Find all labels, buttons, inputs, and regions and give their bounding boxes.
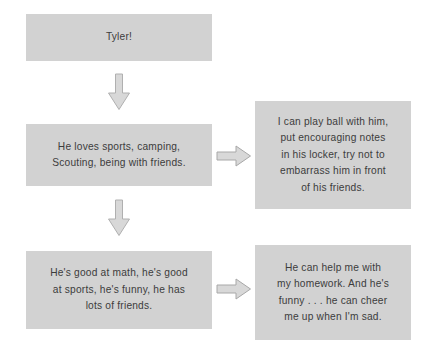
arrow-down-icon (104, 199, 134, 237)
arrow-right-icon (216, 277, 252, 301)
flowchart-node-tyler: Tyler! (26, 14, 212, 61)
flowchart-node-goodat-label: He's good at math, he's good at sports, … (50, 265, 188, 315)
flowchart-node-loves-label: He loves sports, camping, Scouting, bein… (52, 139, 185, 172)
arrow-right-icon (216, 144, 252, 168)
flowchart-node-playball: I can play ball with him, put encouragin… (255, 101, 411, 209)
flowchart-node-helpme: He can help me with my homework. And he'… (255, 245, 411, 340)
arrow-down-icon (104, 73, 134, 111)
flowchart-node-playball-label: I can play ball with him, put encouragin… (278, 114, 388, 197)
flowchart-node-loves: He loves sports, camping, Scouting, bein… (26, 124, 212, 186)
flowchart-node-helpme-label: He can help me with my homework. And he'… (277, 260, 389, 326)
flowchart-node-tyler-label: Tyler! (106, 29, 132, 46)
flowchart-canvas: Tyler! He loves sports, camping, Scoutin… (0, 0, 432, 358)
flowchart-node-goodat: He's good at math, he's good at sports, … (26, 251, 212, 329)
